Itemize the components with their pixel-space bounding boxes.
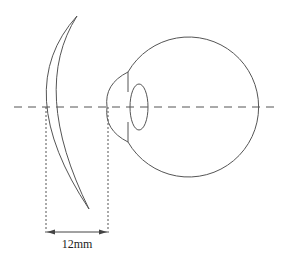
lens-back-surface	[56, 16, 89, 209]
vertex-distance-diagram: 12mm	[0, 0, 288, 261]
vertex-distance: 12mm	[46, 107, 108, 251]
arrowhead-left-icon	[47, 230, 55, 235]
lens-front-surface	[46, 16, 89, 209]
corrective-lens	[46, 16, 89, 209]
arrowhead-right-icon	[99, 230, 107, 235]
distance-label: 12mm	[62, 237, 93, 251]
